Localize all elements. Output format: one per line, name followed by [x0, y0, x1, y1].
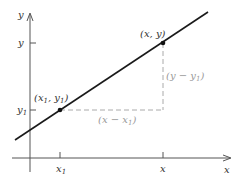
- y-axis: y: [17, 9, 33, 172]
- x-axis: x: [12, 155, 231, 175]
- y-tick-y: y: [17, 37, 36, 48]
- rise-label: (y − y1): [166, 70, 204, 83]
- y-tick-y1: y1: [16, 104, 36, 117]
- point-x1-y1-dot: [58, 108, 63, 113]
- x-tick-label-x: x: [160, 163, 166, 174]
- x-tick-x: x: [160, 152, 166, 174]
- x-tick-x1: x1: [56, 152, 66, 176]
- point-x1-y1-label: (x1, y1): [34, 92, 69, 105]
- y-axis-label: y: [17, 9, 24, 20]
- point-x-y-label: (x, y): [140, 28, 166, 39]
- x-axis-label: x: [224, 164, 230, 175]
- point-x-y-dot: [161, 41, 166, 46]
- point-slope-diagram: y x y y1 x1 x (x1, y1) (x, y) (x − x1) (…: [0, 0, 244, 181]
- y-tick-label-y: y: [17, 37, 24, 48]
- y-tick-label-y1: y1: [16, 104, 27, 117]
- x-tick-label-x1: x1: [56, 163, 66, 176]
- run-label: (x − x1): [98, 114, 136, 127]
